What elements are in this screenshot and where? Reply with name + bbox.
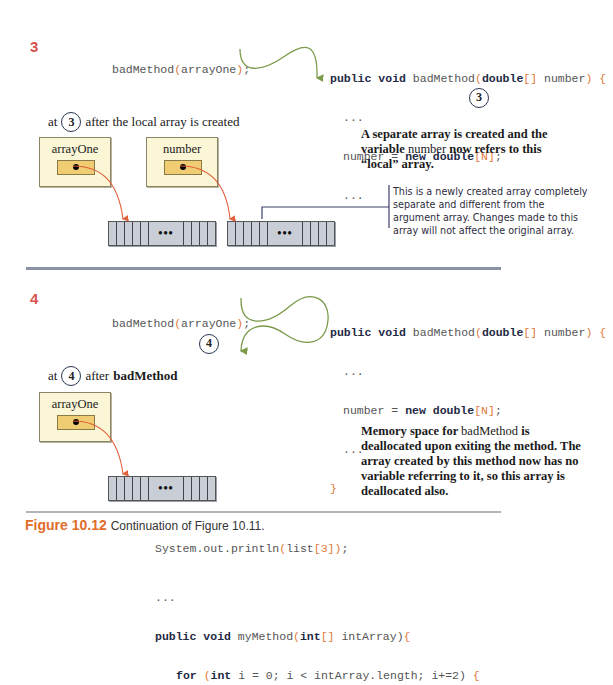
brackets: []: [321, 630, 335, 643]
reference-arrow-icon: [73, 421, 123, 474]
reference-arrow-icon: [180, 166, 230, 219]
paren: ): [397, 630, 404, 643]
brace: {: [473, 669, 480, 682]
return-arrow-icon: [241, 297, 328, 351]
keyword: int: [300, 630, 321, 643]
paren: ): [459, 669, 466, 682]
code-text: i = 0; i < intArray.length; i+=2: [238, 669, 459, 682]
flow-arrow-icon: [240, 47, 317, 78]
callout-line: [262, 207, 389, 219]
keyword: void: [203, 630, 231, 643]
paren: (: [293, 630, 300, 643]
brace: {: [404, 630, 411, 643]
reference-arrow-icon: [73, 166, 123, 219]
keyword: public: [155, 630, 196, 643]
method-name: myMethod: [238, 630, 293, 643]
code-line: public void myMethod(int[] intArray){: [155, 630, 480, 643]
code-line: for (int i = 0; i < intArray.length; i+=…: [155, 669, 480, 682]
param: intArray: [341, 630, 396, 643]
keyword: int: [211, 669, 232, 682]
paren: (: [204, 669, 211, 682]
keyword: for: [176, 669, 197, 682]
